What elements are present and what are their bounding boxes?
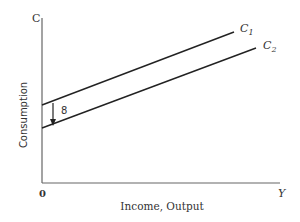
c2-line	[42, 48, 256, 128]
c1-label: C1	[240, 22, 254, 37]
x-axis-symbol: Y	[278, 187, 287, 200]
shift-label: 8	[61, 105, 67, 116]
y-axis-symbol: C	[32, 12, 40, 25]
consumption-function-diagram: 8 C Y 0 C1 C2 Consumption Income, Output	[0, 0, 300, 222]
origin-label: 0	[39, 188, 46, 199]
x-axis-title: Income, Output	[120, 200, 204, 212]
c1-line	[42, 32, 234, 105]
y-axis-title: Consumption	[18, 82, 29, 148]
c2-label: C2	[263, 39, 277, 54]
